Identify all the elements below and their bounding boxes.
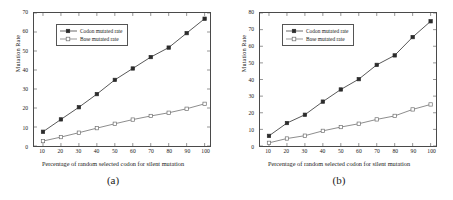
x-axis-label-b: Percentage of random selected codon for … bbox=[226, 160, 452, 167]
x-tick-label: 40 bbox=[94, 148, 100, 154]
y-tick-label: 50 bbox=[248, 60, 254, 66]
chart-panel-b: 01020304050607080 Mutation Rate Codon mu… bbox=[226, 0, 452, 200]
legend-marker-open-square-icon bbox=[286, 35, 303, 43]
legend-label-base-b: Base mutated rate bbox=[306, 35, 345, 43]
legend-entry-codon-b: Codon mutated rate bbox=[286, 27, 349, 35]
y-axis-label-b: Mutation Rate bbox=[240, 0, 247, 109]
x-axis-tick-labels-a: 102030405060708090100 bbox=[33, 148, 211, 160]
legend-label-codon-b: Codon mutated rate bbox=[306, 27, 349, 35]
legend-label-base-a: Base mutated rate bbox=[80, 35, 119, 43]
x-tick-label: 30 bbox=[302, 148, 308, 154]
x-tick-label: 70 bbox=[374, 148, 380, 154]
y-tick-label: 0 bbox=[251, 144, 254, 150]
y-tick-label: 80 bbox=[248, 9, 254, 15]
legend-b: Codon mutated rate Base mutated rate bbox=[282, 24, 354, 46]
x-tick-label: 20 bbox=[283, 148, 289, 154]
legend-marker-open-square-icon bbox=[60, 35, 77, 43]
x-tick-label: 30 bbox=[76, 148, 82, 154]
legend-entry-base-a: Base mutated rate bbox=[60, 35, 123, 43]
x-tick-label: 10 bbox=[265, 148, 271, 154]
x-tick-label: 90 bbox=[411, 148, 417, 154]
y-tick-label: 10 bbox=[22, 125, 28, 131]
y-tick-label: 40 bbox=[248, 77, 254, 83]
panel-caption-b: (b) bbox=[226, 174, 452, 186]
y-tick-label: 30 bbox=[22, 86, 28, 92]
y-tick-label: 20 bbox=[248, 110, 254, 116]
chart-panel-a: 010203040506070 Mutation Rate Codon muta… bbox=[0, 0, 226, 200]
x-tick-label: 80 bbox=[166, 148, 172, 154]
legend-entry-base-b: Base mutated rate bbox=[286, 35, 349, 43]
x-tick-label: 90 bbox=[185, 148, 191, 154]
plot-area-b: Codon mutated rate Base mutated rate bbox=[259, 12, 437, 147]
x-tick-label: 20 bbox=[57, 148, 63, 154]
y-tick-label: 70 bbox=[22, 9, 28, 15]
y-tick-label: 20 bbox=[22, 105, 28, 111]
y-axis-label-a: Mutation Rate bbox=[14, 0, 21, 109]
x-tick-label: 70 bbox=[148, 148, 154, 154]
x-tick-label: 60 bbox=[130, 148, 136, 154]
y-tick-label: 0 bbox=[25, 144, 28, 150]
x-tick-label: 100 bbox=[427, 148, 435, 154]
plot-area-a: Codon mutated rate Base mutated rate bbox=[33, 12, 211, 147]
panel-caption-a: (a) bbox=[0, 174, 226, 186]
figure-two-panel-line-charts: 010203040506070 Mutation Rate Codon muta… bbox=[0, 0, 453, 200]
y-tick-label: 30 bbox=[248, 93, 254, 99]
x-tick-label: 80 bbox=[392, 148, 398, 154]
y-tick-label: 40 bbox=[22, 67, 28, 73]
x-tick-label: 50 bbox=[338, 148, 344, 154]
y-tick-label: 10 bbox=[248, 127, 254, 133]
x-tick-label: 100 bbox=[201, 148, 209, 154]
y-tick-label: 60 bbox=[248, 43, 254, 49]
y-tick-label: 50 bbox=[22, 48, 28, 54]
legend-marker-filled-square-icon bbox=[286, 27, 303, 35]
legend-marker-filled-square-icon bbox=[60, 27, 77, 35]
x-axis-tick-labels-b: 102030405060708090100 bbox=[259, 148, 437, 160]
y-tick-label: 60 bbox=[22, 28, 28, 34]
x-tick-label: 10 bbox=[39, 148, 45, 154]
legend-a: Codon mutated rate Base mutated rate bbox=[56, 24, 128, 46]
y-tick-label: 70 bbox=[248, 26, 254, 32]
x-tick-label: 40 bbox=[320, 148, 326, 154]
legend-label-codon-a: Codon mutated rate bbox=[80, 27, 123, 35]
x-tick-label: 50 bbox=[112, 148, 118, 154]
x-axis-label-a: Percentage of random selected codon for … bbox=[0, 160, 226, 167]
legend-entry-codon-a: Codon mutated rate bbox=[60, 27, 123, 35]
x-tick-label: 60 bbox=[356, 148, 362, 154]
